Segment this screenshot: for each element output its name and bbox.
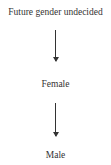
down-arrow-icon [55, 30, 56, 61]
node-male: Male [0, 150, 111, 161]
node-female: Female [0, 79, 111, 90]
node-future-gender-undecided: Future gender undecided [0, 7, 111, 18]
down-arrow-icon [55, 103, 56, 136]
